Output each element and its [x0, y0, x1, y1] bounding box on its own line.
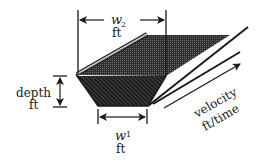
- w1-label: w: [115, 128, 126, 143]
- w2-subscript: 2: [121, 20, 126, 29]
- channel-diagram: w 2 ft depth ft w 1 ft velocity ft/time: [0, 0, 263, 166]
- w1-unit: ft: [116, 142, 125, 156]
- w2-unit: ft: [112, 26, 121, 40]
- w1-subscript: 1: [126, 130, 131, 139]
- water-surface: [78, 35, 230, 76]
- depth-unit: ft: [29, 98, 38, 112]
